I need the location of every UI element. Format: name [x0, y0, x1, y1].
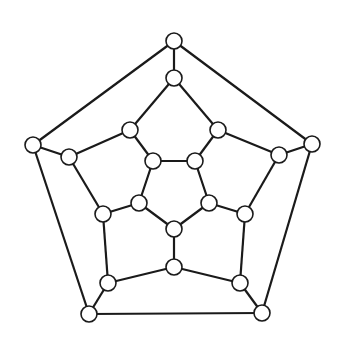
graph-node	[304, 136, 320, 152]
graph-edge	[33, 41, 174, 145]
graph-node	[166, 33, 182, 49]
graph-edge	[174, 267, 240, 283]
graph-edge	[69, 157, 103, 214]
graph-node	[210, 122, 226, 138]
graph-node	[25, 137, 41, 153]
graph-node	[131, 195, 147, 211]
graph-node	[201, 195, 217, 211]
graph-edge	[130, 78, 174, 130]
graph-node	[271, 147, 287, 163]
graph-node	[166, 221, 182, 237]
graph-node	[232, 275, 248, 291]
graph-node	[122, 122, 138, 138]
graph-edge	[69, 130, 130, 157]
graph-node	[145, 153, 161, 169]
graph-edge	[33, 145, 89, 314]
graph-node	[254, 305, 270, 321]
graph-node	[95, 206, 111, 222]
graph-node	[187, 153, 203, 169]
graph-edge	[174, 41, 312, 144]
graph-edge	[89, 313, 262, 314]
graph-edge	[108, 267, 174, 283]
graph-node	[237, 206, 253, 222]
graph-edge	[103, 214, 108, 283]
graph-edge	[245, 155, 279, 214]
graph-node	[81, 306, 97, 322]
graph-edge	[174, 78, 218, 130]
graph-nodes	[25, 33, 320, 322]
graph-edge	[218, 130, 279, 155]
graph-node	[166, 259, 182, 275]
graph-edge	[240, 214, 245, 283]
graph-node	[100, 275, 116, 291]
graph-node	[61, 149, 77, 165]
graph-node	[166, 70, 182, 86]
dodecahedral-graph-diagram	[0, 0, 337, 345]
